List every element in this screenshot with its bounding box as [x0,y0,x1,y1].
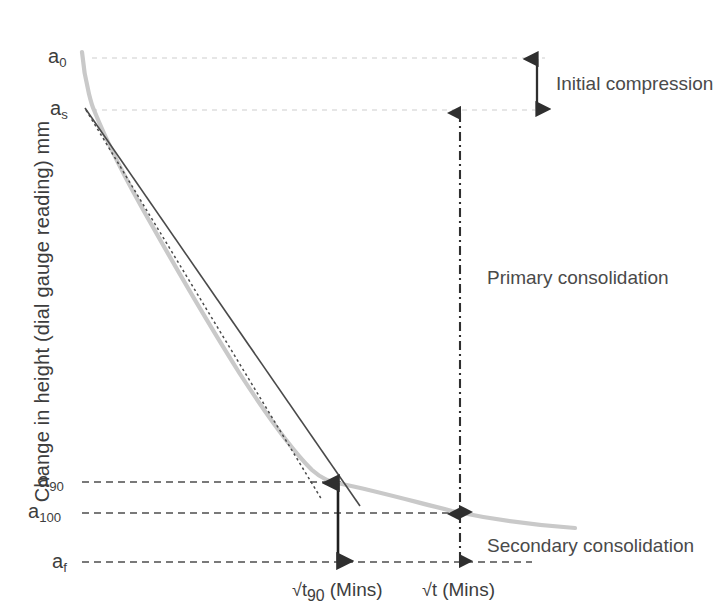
label-a0: a0 [48,46,66,66]
label-a100-sub: 100 [39,510,61,525]
label-a100-text: a [28,500,39,522]
x-label-t-units: (Mins) [437,579,495,600]
label-a90: a90 [38,470,64,490]
label-a90-text: a [38,469,49,491]
label-a0-text: a [48,45,59,67]
tangent-line-dotted [86,110,322,500]
y-axis-title: Change in height (dial gauge reading) mm [31,102,54,522]
label-as: as [50,98,68,118]
label-af-text: a [52,550,63,572]
label-af: af [52,551,67,571]
x-label-t90-units: (Mins) [325,579,383,600]
label-af-sub: f [63,560,67,575]
label-a90-sub: 90 [49,479,64,494]
x-label-t: √t (Mins) [422,580,495,599]
x-label-t90-sub: 90 [307,587,325,604]
x-label-t-root: √t [422,580,437,600]
label-as-sub: s [61,107,68,122]
tangent-line-solid [85,108,360,506]
consolidation-settlement-chart: Change in height (dial gauge reading) mm… [0,0,720,610]
label-a100: a100 [28,501,61,521]
label-a0-sub: 0 [59,55,66,70]
annotation-secondary-consolidation: Secondary consolidation [487,536,694,555]
consolidation-curve [82,52,575,528]
x-label-t90-root: √t [292,580,307,600]
x-label-t90: √t90 (Mins) [292,580,383,604]
label-as-text: a [50,97,61,119]
annotation-initial-compression: Initial compression [556,74,713,93]
annotation-primary-consolidation: Primary consolidation [487,268,669,287]
